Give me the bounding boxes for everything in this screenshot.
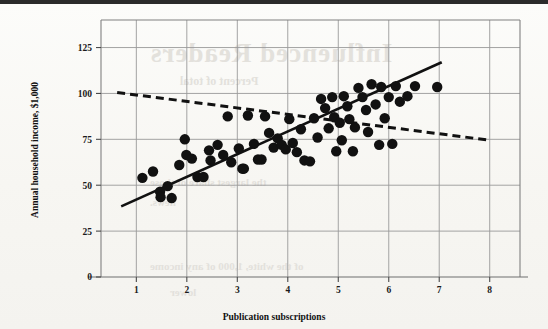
chart-canvas: 025507510012512345678 Publication subscr… — [0, 0, 548, 329]
x-axis-title: Publication subscriptions — [223, 312, 326, 322]
data-point — [296, 124, 306, 134]
x-axis-tick-label: 7 — [437, 285, 442, 295]
data-point — [212, 140, 222, 150]
y-axis-tick-label: 50 — [83, 181, 93, 191]
y-axis-tick-label: 100 — [78, 89, 93, 99]
y-axis-tick-label: 125 — [78, 43, 93, 53]
figure-page: Influenced Readers Percent of total the … — [0, 0, 548, 329]
data-point — [264, 128, 274, 138]
data-point — [337, 135, 347, 145]
data-point — [234, 143, 244, 153]
axis-ticks — [96, 48, 490, 282]
scatter-chart: 025507510012512345678 Publication subscr… — [0, 0, 548, 329]
data-point — [361, 105, 371, 115]
x-axis-tick-label: 8 — [487, 285, 492, 295]
gridlines — [101, 20, 520, 277]
data-point — [187, 153, 197, 163]
data-point — [339, 91, 349, 101]
x-axis-tick-label: 2 — [184, 285, 189, 295]
data-point — [137, 173, 147, 183]
axis-tick-labels: 025507510012512345678 — [78, 43, 493, 295]
plot-frame — [88, 20, 528, 277]
data-point — [342, 101, 352, 111]
x-axis-tick-label: 5 — [336, 285, 341, 295]
data-point — [348, 146, 358, 156]
y-axis-tick-label: 25 — [83, 227, 93, 237]
data-point — [249, 139, 259, 149]
data-point — [376, 82, 386, 92]
data-point — [331, 146, 341, 156]
data-point — [320, 103, 330, 113]
data-point — [148, 166, 158, 176]
data-point — [335, 118, 345, 128]
x-axis-tick-label: 3 — [235, 285, 240, 295]
data-point — [243, 110, 253, 120]
data-point — [260, 111, 270, 121]
data-point — [309, 113, 319, 123]
data-point — [166, 193, 176, 203]
data-point — [218, 150, 228, 160]
data-point — [204, 145, 214, 155]
data-point — [327, 92, 337, 102]
data-point — [226, 157, 236, 167]
data-points — [137, 79, 442, 203]
data-point — [162, 181, 172, 191]
data-point — [357, 92, 367, 102]
x-axis-tick-label: 1 — [134, 285, 139, 295]
data-point — [323, 123, 333, 133]
data-point — [374, 140, 384, 150]
data-point — [353, 83, 363, 93]
data-point — [288, 138, 298, 148]
data-point — [370, 99, 380, 109]
data-point — [387, 139, 397, 149]
data-point — [198, 172, 208, 182]
data-point — [432, 82, 442, 92]
y-axis-title: Annual household income, $1,000 — [30, 82, 40, 218]
data-point — [256, 154, 266, 164]
data-point — [205, 155, 215, 165]
data-point — [223, 111, 233, 121]
y-axis-tick-label: 75 — [83, 135, 93, 145]
data-point — [366, 79, 376, 89]
y-axis-tick-label: 0 — [87, 272, 92, 282]
data-point — [284, 114, 294, 124]
data-point — [391, 81, 401, 91]
data-point — [380, 113, 390, 123]
data-point — [239, 163, 249, 173]
data-point — [312, 132, 322, 142]
data-point — [384, 92, 394, 102]
data-point — [350, 122, 360, 132]
data-point — [410, 81, 420, 91]
data-point — [305, 156, 315, 166]
data-point — [292, 147, 302, 157]
data-point — [180, 134, 190, 144]
data-point — [402, 91, 412, 101]
data-point — [174, 160, 184, 170]
data-point — [155, 192, 165, 202]
data-point — [316, 94, 326, 104]
x-axis-tick-label: 6 — [386, 285, 391, 295]
x-axis-tick-label: 4 — [285, 285, 290, 295]
data-point — [363, 127, 373, 137]
